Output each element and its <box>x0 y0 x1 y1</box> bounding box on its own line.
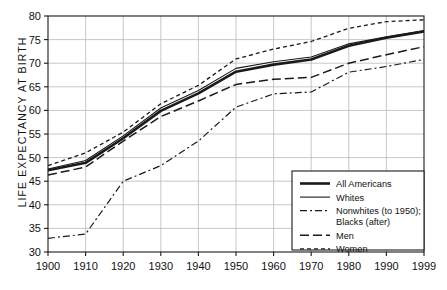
x-tick-label: 1990 <box>374 260 398 272</box>
legend: All AmericansWhitesNonwhites (to 1950);B… <box>292 171 424 254</box>
x-tick-label: 1960 <box>261 260 285 272</box>
y-tick-label: 45 <box>29 175 41 187</box>
x-tick-label: 1999 <box>412 260 436 272</box>
legend-label: All Americans <box>336 179 392 189</box>
legend-label: Nonwhites (to 1950); <box>336 206 421 216</box>
legend-label: Women <box>336 244 368 254</box>
y-tick-label: 55 <box>29 128 41 140</box>
y-tick-label: 60 <box>29 104 41 116</box>
x-tick-label: 1920 <box>111 260 135 272</box>
y-tick-label: 75 <box>29 34 41 46</box>
y-tick-label: 50 <box>29 152 41 164</box>
y-tick-label: 35 <box>29 222 41 234</box>
y-tick-label: 40 <box>29 199 41 211</box>
legend-label-continued: Blacks (after) <box>336 217 390 227</box>
x-tick-label: 1910 <box>73 260 97 272</box>
x-tick-label: 1900 <box>36 260 60 272</box>
y-tick-label: 65 <box>29 81 41 93</box>
y-tick-label: 70 <box>29 57 41 69</box>
chart-figure: LIFE EXPECTANCY AT BIRTH 303540455055606… <box>0 0 447 290</box>
x-tick-label: 1970 <box>299 260 323 272</box>
y-tick-label: 80 <box>29 10 41 22</box>
line-chart: 3035404550556065707580190019101920193019… <box>0 0 447 290</box>
x-tick-label: 1950 <box>224 260 248 272</box>
x-tick-label: 1940 <box>186 260 210 272</box>
y-tick-label: 30 <box>29 246 41 258</box>
legend-label: Whites <box>336 193 364 203</box>
legend-label: Men <box>336 231 354 241</box>
x-tick-label: 1980 <box>337 260 361 272</box>
x-tick-label: 1930 <box>149 260 173 272</box>
